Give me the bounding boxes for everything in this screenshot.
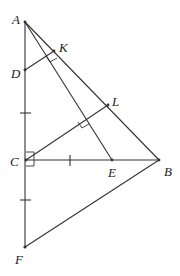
segment-ae (25, 22, 112, 160)
label-a: A (11, 12, 20, 27)
label-f: F (14, 252, 24, 267)
point-a (24, 21, 27, 24)
label-d: D (10, 66, 21, 81)
point-b (158, 159, 161, 162)
segment-cl (26, 105, 108, 160)
point-d (24, 69, 27, 72)
point-e (111, 159, 114, 162)
point-l (107, 104, 110, 107)
point-c (25, 159, 28, 162)
segment-fb (25, 160, 159, 247)
segment-ab (25, 22, 159, 160)
label-c: C (10, 154, 19, 169)
label-b: B (164, 164, 172, 179)
point-k (53, 50, 56, 53)
point-f (23, 245, 26, 248)
label-e: E (107, 165, 116, 180)
right-angle-ae-cl (78, 122, 89, 128)
label-k: K (58, 40, 69, 55)
geometry-diagram: A K D L C E B F (0, 0, 180, 276)
label-l: L (111, 94, 119, 109)
